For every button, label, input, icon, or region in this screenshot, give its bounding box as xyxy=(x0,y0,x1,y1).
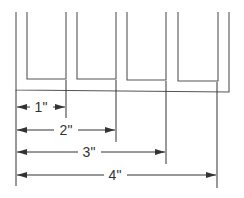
dimension-label-1: 1" xyxy=(35,99,48,115)
channel-1 xyxy=(27,12,66,79)
dimension-1-inch: 1" xyxy=(17,99,65,115)
channel-2 xyxy=(77,12,116,79)
dimension-2-inch: 2" xyxy=(17,122,115,138)
dimension-3-inch: 3" xyxy=(17,144,165,160)
dimension-label-3: 3" xyxy=(83,144,96,160)
channel-4 xyxy=(178,12,218,81)
dimension-label-2: 2" xyxy=(60,122,73,138)
outer-outline xyxy=(16,12,229,92)
dimension-label-4: 4" xyxy=(109,167,122,183)
channel-3 xyxy=(127,12,166,80)
dimension-4-inch: 4" xyxy=(17,167,216,183)
channels xyxy=(27,12,218,81)
comb-dimension-diagram: 1" 2" 3" 4" xyxy=(0,0,244,198)
